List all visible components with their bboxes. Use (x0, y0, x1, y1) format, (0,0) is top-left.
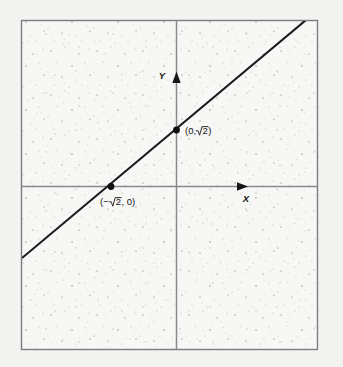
label-x-intercept: (− 2 , 0) (100, 196, 135, 207)
label-y-intercept-suffix: ) (208, 125, 211, 136)
point-x-intercept (108, 183, 115, 190)
label-x-intercept-suffix: , 0) (121, 196, 135, 207)
label-y-intercept-prefix: (0, (185, 125, 196, 136)
figure-root: Y X (0, 2 ) (− 2 , 0) (0, 0, 343, 367)
x-axis-label: X (242, 193, 250, 204)
coordinate-plane-figure: Y X (0, 2 ) (− 2 , 0) (0, 0, 343, 367)
point-y-intercept (173, 127, 180, 134)
plot-area (22, 21, 318, 350)
label-x-intercept-radicand: 2 (116, 196, 121, 207)
label-x-intercept-prefix: (− (100, 196, 109, 207)
label-y-intercept-radicand: 2 (203, 125, 208, 136)
